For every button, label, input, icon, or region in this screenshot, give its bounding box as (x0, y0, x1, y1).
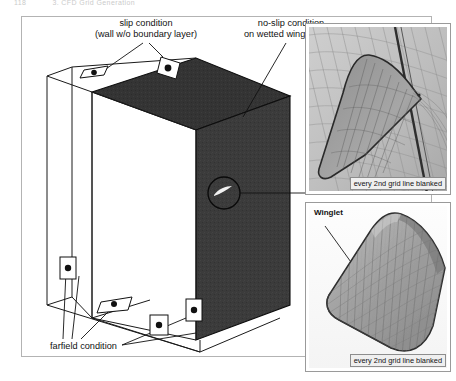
label-winglet: Winglet (314, 208, 343, 217)
running-head: 1183. CFD Grid Generation (14, 0, 135, 8)
winglet-mesh-svg (309, 206, 447, 368)
label-slip-line2: (wall w/o boundary layer) (62, 29, 230, 40)
label-slip-condition: slip condition (wall w/o boundary layer) (62, 18, 230, 40)
inset-wing-junction-mesh: every 2nd grid line blanked (305, 23, 451, 195)
running-head-title: 3. CFD Grid Generation (52, 0, 135, 6)
inset-bottom-image (309, 206, 447, 368)
inset-top-caption: every 2nd grid line blanked (350, 177, 446, 190)
label-slip-line1: slip condition (62, 18, 230, 29)
inset-top-image (309, 27, 447, 191)
inset-bottom-caption: every 2nd grid line blanked (350, 354, 446, 367)
running-head-number: 118 (14, 0, 26, 6)
label-farfield-condition: farfield condition (50, 341, 117, 352)
inset-winglet-mesh: Winglet (305, 202, 451, 372)
wing-junction-mesh-svg (309, 27, 447, 191)
